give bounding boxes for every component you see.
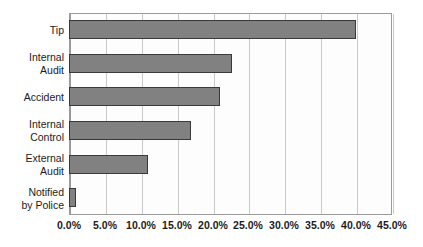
x-tick-label: 15.0% bbox=[162, 219, 192, 232]
bar-notified-by-police[interactable] bbox=[69, 188, 76, 207]
category-label: Tip bbox=[0, 24, 64, 37]
category-label: Accident bbox=[0, 91, 64, 104]
bar-internal-control[interactable] bbox=[69, 121, 191, 140]
x-tick-label: 35.0% bbox=[305, 219, 335, 232]
category-label: Internal Control bbox=[0, 118, 64, 143]
x-tick-label: 20.0% bbox=[198, 219, 228, 232]
x-tick-label: 10.0% bbox=[126, 219, 156, 232]
x-tick-label: 0.0% bbox=[57, 219, 81, 232]
bar-band bbox=[69, 47, 392, 81]
bar-band bbox=[69, 80, 392, 114]
bar-band bbox=[69, 114, 392, 148]
x-tick-label: 40.0% bbox=[341, 219, 371, 232]
gridline-45-0 bbox=[393, 14, 394, 214]
bar-chart: TipInternal AuditAccidentInternal Contro… bbox=[0, 0, 423, 247]
x-tick-label: 5.0% bbox=[93, 219, 117, 232]
bar-accident[interactable] bbox=[69, 87, 220, 106]
bar-band bbox=[69, 181, 392, 215]
x-tick-label: 30.0% bbox=[269, 219, 299, 232]
x-tick-label: 25.0% bbox=[233, 219, 263, 232]
bar-band bbox=[69, 13, 392, 47]
category-label: Notified by Police bbox=[0, 186, 64, 211]
bar-band bbox=[69, 148, 392, 182]
bar-tip[interactable] bbox=[69, 20, 356, 39]
bar-external-audit[interactable] bbox=[69, 155, 148, 174]
bars-layer bbox=[69, 13, 392, 215]
category-axis-labels: TipInternal AuditAccidentInternal Contro… bbox=[0, 13, 64, 215]
category-label: External Audit bbox=[0, 152, 64, 177]
category-label: Internal Audit bbox=[0, 51, 64, 76]
x-tick-label: 45.0% bbox=[377, 219, 407, 232]
value-axis-labels: 0.0%5.0%10.0%15.0%20.0%25.0%30.0%35.0%40… bbox=[69, 219, 392, 239]
bar-internal-audit[interactable] bbox=[69, 54, 232, 73]
